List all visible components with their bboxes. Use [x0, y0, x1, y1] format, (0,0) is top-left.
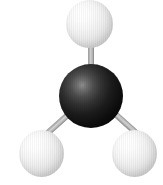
- atom-sphere-center: [59, 64, 123, 128]
- figure-description: Ball-and-stick 3D model of a molecule: o…: [0, 0, 1, 1]
- molecule-diagram: Ball-and-stick 3D model of a molecule: o…: [0, 0, 163, 185]
- atom-sphere-top: [66, 0, 113, 48]
- atom-sphere-bottom-right: [112, 130, 157, 177]
- atom-sphere-bottom-left: [19, 130, 64, 177]
